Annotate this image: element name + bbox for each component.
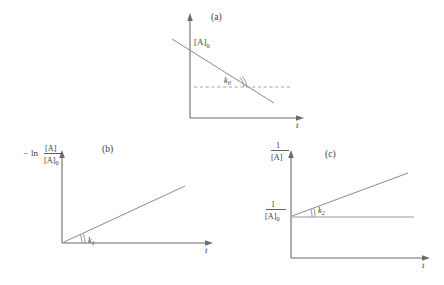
panel-b-y-axis-label-group: − ln [A] [A]0 xyxy=(23,144,62,166)
panel-a-intercept-text: [A] xyxy=(194,37,207,47)
panel-c-y-axis-label-group: 1 [A] xyxy=(271,141,289,162)
panel-b-fraction-denominator-subscript: 0 xyxy=(55,159,58,166)
panel-b-fraction-denominator: [A]0 xyxy=(44,156,58,166)
panel-b-x-axis-label: t xyxy=(205,245,208,255)
panel-c-intercept-denominator-subscript: 0 xyxy=(276,215,279,222)
figure-canvas: (a) [A]0 k0 t (b) − xyxy=(0,0,444,285)
panel-c: (c) 1 [A] 1 [A]0 k2 t xyxy=(265,141,430,270)
panel-c-y-denominator: [A] xyxy=(271,153,283,162)
panel-c-intercept-denominator-text: [A] xyxy=(265,212,277,221)
panel-a-angle-arc-outer xyxy=(243,77,247,88)
panel-b-y-axis-arrowhead xyxy=(59,150,65,158)
panel-a: (a) [A]0 k0 t xyxy=(172,12,304,130)
panel-c-y-axis-arrowhead xyxy=(288,150,294,158)
panel-b-label: (b) xyxy=(102,144,113,155)
panel-c-angle-arc xyxy=(311,210,312,218)
panel-c-slope-label: k2 xyxy=(318,205,325,216)
panel-c-label: (c) xyxy=(325,149,336,160)
panel-c-y-numerator: 1 xyxy=(276,141,280,150)
panel-a-slope-subscript: 0 xyxy=(228,80,231,86)
kinetics-figure: (a) [A]0 k0 t (b) − xyxy=(0,0,444,285)
panel-b-data-line xyxy=(64,186,185,242)
panel-c-intercept-denominator: [A]0 xyxy=(265,212,279,222)
panel-b-fraction-numerator: [A] xyxy=(45,144,57,153)
panel-c-angle-arc-outer xyxy=(314,208,315,217)
panel-a-intercept-label: [A]0 xyxy=(194,37,210,49)
panel-a-data-line xyxy=(172,39,274,103)
panel-c-x-axis-label: t xyxy=(422,260,425,270)
panel-b-fraction-denominator-text: [A] xyxy=(44,156,56,165)
panel-b-slope-label: k1 xyxy=(88,235,95,246)
panel-b-slope-subscript: 1 xyxy=(92,240,95,246)
panel-c-intercept-label-group: 1 [A]0 xyxy=(265,200,286,222)
panel-a-y-axis-arrowhead xyxy=(187,13,193,21)
panel-c-data-line xyxy=(292,173,408,216)
panel-a-intercept-subscript: 0 xyxy=(207,42,210,49)
panel-a-slope-label: k0 xyxy=(224,75,231,86)
panel-a-x-axis-label: t xyxy=(296,120,299,130)
panel-a-label: (a) xyxy=(211,12,222,23)
panel-b-angle-arc-outer xyxy=(83,234,85,243)
panel-b-minus-sign: − xyxy=(23,148,28,158)
panel-b-ln-text: ln xyxy=(31,148,39,158)
panel-c-slope-subscript: 2 xyxy=(322,210,325,216)
panel-b-angle-arc xyxy=(80,235,82,243)
panel-b: (b) − ln [A] [A]0 k1 t xyxy=(23,144,213,255)
panel-c-intercept-numerator: 1 xyxy=(271,200,275,209)
